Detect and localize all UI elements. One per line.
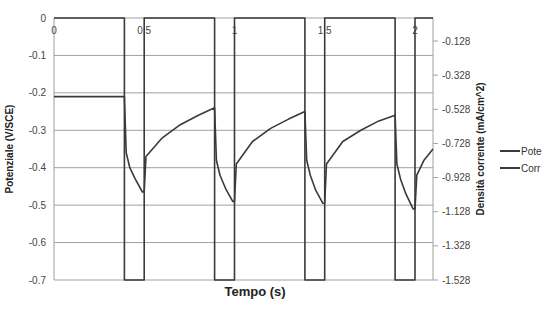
y2-tick-label: -0.528	[442, 104, 471, 115]
y2-tick-label: -0.328	[442, 70, 471, 81]
chart: 00.511.52 0-0.1-0.2-0.3-0.4-0.5-0.6-0.7 …	[0, 0, 553, 311]
series-line-corr	[54, 97, 433, 209]
gridlines	[54, 18, 433, 280]
y-tick-label: 0	[40, 13, 46, 24]
y-tick-label: -0.5	[29, 200, 47, 211]
series-lines	[54, 18, 433, 280]
y-tick-label: -0.6	[29, 237, 47, 248]
legend-label: Pote	[521, 146, 542, 157]
y-tick-label: -0.2	[29, 87, 47, 98]
legend: PoteCorr	[500, 146, 542, 174]
y-tick-label: -0.1	[29, 50, 47, 61]
x-tick-label: 0	[51, 25, 57, 36]
y2-tick-label: -0.928	[442, 172, 471, 183]
y2-tick-label: -1.528	[442, 275, 471, 286]
y2-tick-label: -1.128	[442, 206, 471, 217]
y2-tick-label: -0.728	[442, 138, 471, 149]
series-line-pote	[54, 18, 433, 280]
y-tick-label: -0.7	[29, 275, 47, 286]
legend-label: Corr	[521, 163, 541, 174]
y2-tick-label: -0.128	[442, 36, 471, 47]
y-tick-label: -0.4	[29, 162, 47, 173]
y-axis-ticks: 0-0.1-0.2-0.3-0.4-0.5-0.6-0.7	[29, 13, 47, 286]
y2-axis-label: Densità corrente (mA/cm^2)	[475, 82, 486, 215]
y2-tick-label: -1.328	[442, 240, 471, 251]
y-axis-label: Potenziale (V/SCE)	[4, 105, 15, 194]
y2-axis-ticks: -0.128-0.328-0.528-0.728-0.928-1.128-1.3…	[433, 36, 471, 286]
x-axis-label: Tempo (s)	[224, 284, 285, 299]
y-tick-label: -0.3	[29, 125, 47, 136]
